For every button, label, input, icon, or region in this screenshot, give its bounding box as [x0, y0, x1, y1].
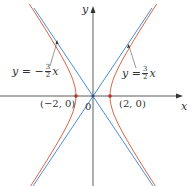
right-eq-leader [129, 46, 136, 68]
left-eq-var: x [52, 65, 58, 78]
left-eq-fraction: 3 2 [45, 64, 51, 79]
right-asymptote-equation: y = 3 2 x [122, 66, 156, 81]
hyperbola-right-branch [110, 4, 157, 186]
right-eq-fraction: 3 2 [142, 66, 148, 81]
left-vertex-label: (−2, 0) [40, 98, 75, 109]
y-axis-label: y [82, 3, 88, 16]
x-axis-label: x [181, 100, 187, 113]
origin-label: 0 [85, 101, 91, 112]
hyperbola-left-branch [29, 4, 76, 186]
right-eq-prefix: y = [122, 67, 141, 80]
hyperbola-diagram [0, 0, 196, 186]
vertex-right-point [108, 94, 112, 98]
left-asymptote-equation: y = − 3 2 x [12, 64, 58, 79]
right-eq-den: 2 [143, 74, 147, 81]
right-eq-var: x [149, 67, 155, 80]
left-eq-den: 2 [46, 72, 50, 79]
y-axis-arrow-icon [91, 6, 96, 13]
x-axis-arrow-icon [176, 94, 183, 99]
origin-point [92, 95, 95, 98]
left-eq-leader [50, 42, 57, 66]
right-vertex-label: (2, 0) [119, 98, 146, 109]
left-eq-prefix: y = − [12, 65, 44, 78]
